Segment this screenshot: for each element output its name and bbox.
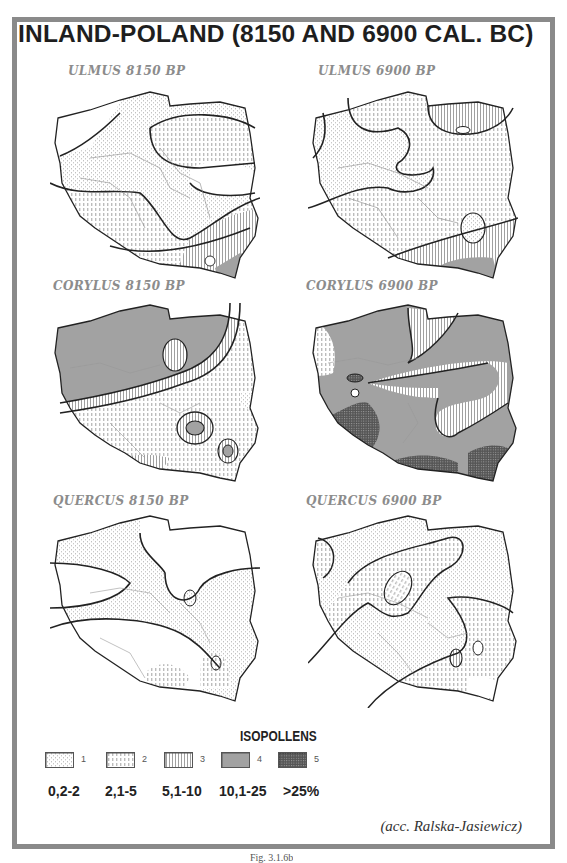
legend-swatch-3 [164,752,193,768]
source-credit: (acc. Ralska-Jasiewicz) [380,818,522,835]
figure-caption: Fig. 3.1.6b [250,852,293,863]
legend-range-2: 2,1-5 [105,783,137,799]
map-quercus-8150 [50,513,260,708]
figure-title: INLAND-POLAND (8150 AND 6900 CAL. BC) [18,20,538,47]
legend-num-1: 1 [81,754,86,764]
map-label-quercus-6900: QUERCUS 6900 BP [306,494,442,508]
legend-range-4: 10,1-25 [219,783,266,799]
legend-swatch-4 [221,752,250,768]
legend-swatch-2 [106,752,135,768]
legend-range-1: 0,2-2 [48,783,80,799]
map-label-ulmus-8150: ULMUS 8150 BP [68,64,185,78]
legend-title: ISOPOLLENS [240,728,317,744]
map-corylus-6900 [308,303,518,483]
legend-swatch-5 [278,752,307,768]
legend-num-3: 3 [200,754,205,764]
legend-num-5: 5 [314,754,319,764]
legend-num-4: 4 [257,754,262,764]
map-quercus-6900 [308,513,518,708]
map-ulmus-8150 [50,88,260,288]
map-label-quercus-8150: QUERCUS 8150 BP [53,494,189,508]
map-ulmus-6900 [308,88,518,288]
map-label-ulmus-6900: ULMUS 6900 BP [318,64,435,78]
legend-num-2: 2 [142,754,147,764]
legend-range-3: 5,1-10 [162,783,202,799]
legend-swatch-1 [45,752,74,768]
map-corylus-8150 [50,303,260,483]
legend-range-5: >25% [283,783,319,799]
